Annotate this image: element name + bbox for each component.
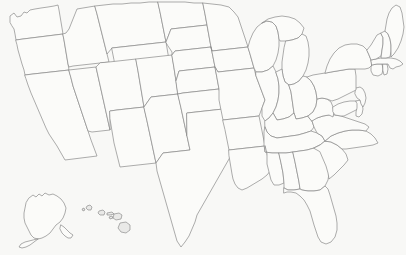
- state-or[interactable]: [16, 34, 69, 75]
- island-hawaii[interactable]: [118, 222, 130, 233]
- state-wi[interactable]: [248, 21, 279, 72]
- state-la[interactable]: [229, 146, 271, 190]
- island-maui[interactable]: [113, 213, 122, 220]
- state-vt[interactable]: [367, 33, 383, 60]
- us-outline-map: [0, 0, 406, 255]
- hawaii-inset-group: [82, 205, 130, 233]
- island-lanai[interactable]: [109, 216, 113, 219]
- state-ny[interactable]: [325, 44, 372, 73]
- state-ar[interactable]: [223, 116, 265, 150]
- island-oahu[interactable]: [98, 210, 105, 215]
- island-niihau[interactable]: [82, 208, 85, 211]
- contiguous-states-group: [10, 2, 404, 247]
- state-ak[interactable]: [19, 193, 73, 248]
- island-molokai[interactable]: [107, 212, 114, 215]
- island-kauai[interactable]: [86, 205, 92, 210]
- state-ct[interactable]: [371, 64, 383, 76]
- state-ia[interactable]: [211, 47, 254, 72]
- map-svg-canvas: [0, 0, 406, 255]
- state-fl[interactable]: [284, 186, 337, 244]
- state-ri[interactable]: [383, 64, 388, 75]
- alaska-inset-group: [19, 193, 73, 248]
